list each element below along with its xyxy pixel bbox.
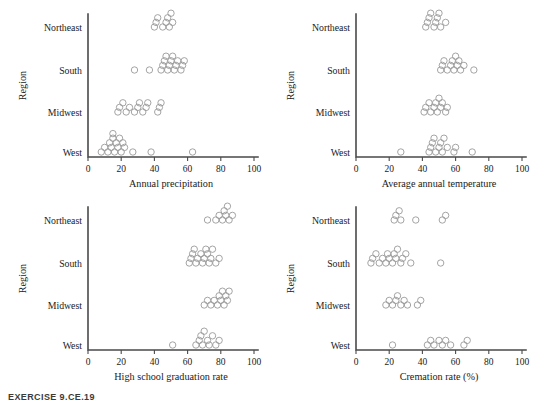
data-point xyxy=(403,251,409,257)
y-category-label: Northeast xyxy=(312,22,350,33)
y-category-label: South xyxy=(59,258,82,269)
data-point xyxy=(216,255,222,261)
x-tick-label: 100 xyxy=(247,357,262,367)
series-south xyxy=(186,246,222,266)
y-category-label: Midwest xyxy=(316,300,351,311)
y-axis-title: Region xyxy=(17,264,28,293)
data-point xyxy=(226,288,232,294)
data-point xyxy=(140,109,146,115)
data-point xyxy=(461,62,467,68)
series-midwest xyxy=(383,293,424,309)
x-tick-label: 20 xyxy=(384,357,394,367)
data-point xyxy=(224,203,230,209)
data-point xyxy=(219,217,225,223)
series-south xyxy=(368,246,444,266)
series-northeast xyxy=(151,10,176,30)
x-tick-label: 20 xyxy=(116,164,126,174)
data-point xyxy=(396,208,402,214)
data-point xyxy=(213,260,219,266)
data-point xyxy=(120,100,126,106)
y-axis-title: Region xyxy=(17,71,28,100)
figure-grid: 020406080100NortheastSouthMidwestWestReg… xyxy=(0,0,537,385)
series-northeast xyxy=(423,10,449,30)
x-tick-label: 40 xyxy=(418,164,428,174)
data-point xyxy=(451,67,457,73)
data-point xyxy=(441,135,447,141)
dotplot-panel-cremation: 020406080100NortheastSouthMidwestWestReg… xyxy=(268,193,536,386)
data-point xyxy=(123,109,129,115)
data-point xyxy=(160,24,166,30)
data-point xyxy=(131,67,137,73)
dotplot-panel-temperature: 020406080100NortheastSouthMidwestWestReg… xyxy=(268,0,536,193)
y-axis-title: Region xyxy=(285,264,296,293)
x-tick-label: 0 xyxy=(354,164,359,174)
x-axis-title: Annual precipitation xyxy=(129,178,213,189)
data-point xyxy=(436,337,442,343)
x-axis-title: Cremation rate (%) xyxy=(400,371,479,383)
x-tick-label: 40 xyxy=(150,357,160,367)
data-point xyxy=(434,109,440,115)
x-tick-label: 100 xyxy=(247,164,262,174)
data-point xyxy=(442,212,448,218)
y-category-label: Midwest xyxy=(48,107,83,118)
data-point xyxy=(204,217,210,223)
data-point xyxy=(189,149,195,155)
data-point xyxy=(146,67,152,73)
data-point xyxy=(389,302,395,308)
data-point xyxy=(439,342,445,348)
series-west xyxy=(98,130,196,155)
data-point xyxy=(226,217,232,223)
x-tick-label: 80 xyxy=(484,357,494,367)
series-west xyxy=(169,328,222,348)
data-point xyxy=(398,149,404,155)
data-point xyxy=(216,337,222,343)
series-midwest xyxy=(201,288,232,308)
y-category-label: Northeast xyxy=(44,215,82,226)
data-point xyxy=(442,19,448,25)
dotplot-temperature: 020406080100NortheastSouthMidwestWestReg… xyxy=(268,0,536,193)
x-tick-label: 20 xyxy=(384,164,394,174)
data-point xyxy=(166,24,172,30)
x-tick-label: 60 xyxy=(183,164,193,174)
dotplot-cremation: 020406080100NortheastSouthMidwestWestReg… xyxy=(268,193,536,386)
data-point xyxy=(383,260,389,266)
axis-lines xyxy=(356,207,526,350)
data-point xyxy=(428,337,434,343)
data-point xyxy=(110,130,116,136)
data-point xyxy=(130,149,136,155)
x-tick-label: 0 xyxy=(86,164,91,174)
x-tick-label: 80 xyxy=(484,164,494,174)
data-point xyxy=(389,342,395,348)
series-south xyxy=(131,53,187,73)
exercise-caption: EXERCISE 9.CE.19 xyxy=(8,392,95,402)
data-point xyxy=(398,302,404,308)
x-tick-label: 80 xyxy=(216,357,226,367)
y-category-label: West xyxy=(331,147,351,158)
x-tick-label: 0 xyxy=(354,357,359,367)
data-point xyxy=(214,302,220,308)
x-axis-title: Average annual temperature xyxy=(382,178,497,189)
series-midwest xyxy=(115,100,165,116)
series-west xyxy=(398,135,476,155)
data-point xyxy=(437,260,443,266)
data-point xyxy=(105,149,111,155)
data-point xyxy=(204,297,210,303)
data-point xyxy=(118,149,124,155)
x-tick-label: 0 xyxy=(86,357,91,367)
y-category-label: South xyxy=(327,258,350,269)
data-point xyxy=(219,288,225,294)
data-point xyxy=(116,135,122,141)
y-category-label: Midwest xyxy=(48,300,83,311)
data-point xyxy=(464,337,470,343)
dotplot-panel-graduation: 020406080100NortheastSouthMidwestWestReg… xyxy=(0,193,268,386)
data-point xyxy=(444,67,450,73)
data-point xyxy=(208,302,214,308)
data-point xyxy=(148,149,154,155)
x-tick-label: 100 xyxy=(515,357,530,367)
data-point xyxy=(432,149,438,155)
data-point xyxy=(404,302,410,308)
data-point xyxy=(389,260,395,266)
x-tick-label: 80 xyxy=(216,164,226,174)
y-axis-title: Region xyxy=(285,71,296,100)
data-point xyxy=(221,302,227,308)
